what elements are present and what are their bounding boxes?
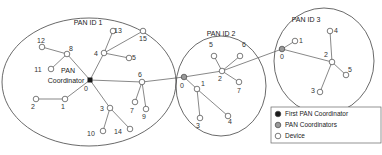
node-label: 4 — [228, 118, 232, 125]
pan-2-boundary — [176, 36, 266, 136]
device-node — [127, 126, 133, 132]
device-node — [236, 79, 242, 85]
inter-pan-link — [222, 49, 282, 71]
device-node — [140, 28, 146, 34]
device-node — [219, 68, 225, 74]
legend: First PAN CoordinatorPAN CoordinatorsDev… — [271, 107, 381, 143]
node-label: 2 — [218, 75, 222, 82]
link — [142, 82, 146, 109]
node-label: 1 — [201, 80, 205, 87]
device-node — [39, 44, 45, 50]
link — [330, 31, 332, 62]
node-label: 1 — [299, 37, 303, 44]
pan-coordinator-caption: PAN — [61, 67, 75, 74]
node-label: 14 — [114, 128, 122, 135]
legend-label: First PAN Coordinator — [285, 110, 349, 117]
link — [104, 31, 113, 53]
node-label: 13 — [114, 27, 122, 34]
device-node — [329, 59, 335, 65]
device-node — [194, 86, 200, 92]
node-label: 3 — [196, 122, 200, 129]
link — [197, 89, 228, 116]
node-label: 12 — [37, 37, 45, 44]
device-node — [237, 53, 243, 59]
pan-3-title: PAN ID 3 — [292, 16, 321, 23]
link — [110, 108, 130, 129]
link — [184, 71, 222, 77]
node-label: 3 — [311, 87, 315, 94]
device-node — [343, 72, 349, 78]
device-node — [64, 51, 70, 57]
pan-coordinator-node — [181, 74, 187, 80]
node-label: 0 — [180, 82, 184, 89]
pan-coordinator-node — [279, 46, 285, 52]
pan-network-diagram: PAN ID 10812114131551231014679PANCoordin… — [0, 0, 382, 155]
device-node — [139, 79, 145, 85]
legend-pan-coordinator-icon — [275, 122, 281, 128]
node-label: 15 — [139, 35, 147, 42]
device-node — [126, 55, 132, 61]
device-node — [317, 89, 323, 95]
device-node — [62, 96, 68, 102]
node-label: 6 — [242, 41, 246, 48]
node-label: 2 — [31, 103, 35, 110]
node-label: 4 — [94, 50, 98, 57]
node-label: 4 — [334, 27, 338, 34]
link — [135, 82, 142, 102]
first-pan-coordinator-node — [88, 78, 93, 83]
device-node — [211, 53, 217, 59]
legend-label: PAN Coordinators — [285, 121, 338, 128]
legend-first-pan-coordinator-icon — [275, 111, 281, 117]
link — [197, 89, 200, 118]
node-label: 5 — [348, 66, 352, 73]
node-label: 5 — [209, 41, 213, 48]
device-node — [132, 99, 138, 105]
node-label: 10 — [87, 130, 95, 137]
device-node — [33, 96, 39, 102]
link — [222, 56, 240, 71]
node-label: 1 — [61, 103, 65, 110]
pan-coordinator-caption: Coordinator — [48, 77, 85, 84]
node-label: 2 — [324, 51, 328, 58]
device-node — [48, 66, 54, 72]
node-label: 8 — [69, 45, 73, 52]
link — [90, 80, 142, 82]
device-node — [292, 38, 298, 44]
link — [90, 80, 110, 108]
device-node — [197, 115, 203, 121]
node-label: 3 — [100, 105, 104, 112]
pan-2-title: PAN ID 2 — [207, 30, 236, 37]
node-label: 7 — [130, 107, 134, 114]
pan-1-title: PAN ID 1 — [74, 19, 103, 26]
node-label: 7 — [237, 87, 241, 94]
node-label: 0 — [280, 53, 284, 60]
node-label: 5 — [132, 54, 136, 61]
device-node — [101, 50, 107, 56]
device-node — [107, 105, 113, 111]
link — [320, 62, 332, 92]
device-node — [327, 28, 333, 34]
node-label: 0 — [84, 85, 88, 92]
link — [103, 108, 110, 131]
legend-label: Device — [285, 132, 305, 139]
device-node — [143, 106, 149, 112]
node-label: 11 — [34, 66, 41, 73]
legend-device-icon — [275, 133, 281, 139]
link — [90, 53, 104, 80]
inter-pan-link — [142, 77, 184, 82]
link — [42, 47, 67, 54]
device-node — [100, 128, 106, 134]
link — [104, 53, 129, 58]
pan-3-boundary — [274, 8, 374, 114]
node-label: 6 — [138, 71, 142, 78]
link — [104, 31, 143, 53]
node-label: 9 — [142, 113, 146, 120]
